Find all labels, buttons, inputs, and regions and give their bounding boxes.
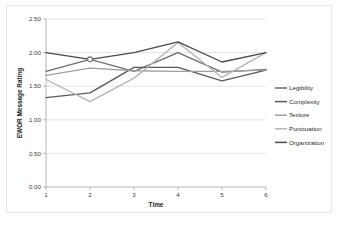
x-tick-label-6: 6 [264,191,268,198]
legend-label-organization: Organization [289,139,325,146]
data-marker-group [88,57,93,62]
y-tick-label-2-50: 2.50 [29,15,42,22]
gridlines [46,19,266,153]
x-tick-label-3: 3 [132,191,136,198]
data-series-group [46,42,266,102]
x-axis-title: Time [149,201,164,208]
x-tick-label-4: 4 [176,191,180,198]
x-tick-label-1: 1 [44,191,48,198]
series-line-legibility [46,53,266,72]
chart-legend: LegibilityComplexityTexturePunctuationOr… [275,84,325,145]
legend-label-texture: Texture [289,111,310,118]
x-tick-label-5: 5 [220,191,224,198]
x-axis: 1 2 3 4 5 6 [44,187,268,198]
series-line-organization [46,42,266,62]
legend-label-complexity: Complexity [289,98,321,105]
y-tick-label-2-00: 2.00 [29,49,42,56]
y-tick-label-1-50: 1.50 [29,82,42,89]
y-axis: 2.50 2.00 1.50 1.00 0.50 0.00 [29,15,46,190]
line-chart-plot: 2.50 2.00 1.50 1.00 0.50 0.00 1 2 3 4 5 … [0,0,340,228]
y-axis-title: EWOR Message Rating [16,68,24,138]
chart-figure: 2.50 2.00 1.50 1.00 0.50 0.00 1 2 3 4 5 … [0,0,340,228]
y-tick-label-0-00: 0.00 [29,183,42,190]
legend-label-punctuation: Punctuation [289,125,322,132]
legend-label-legibility: Legibility [289,84,314,91]
data-marker-legibility [88,57,93,62]
y-tick-label-0-50: 0.50 [29,150,42,157]
y-tick-label-1-00: 1.00 [29,116,42,123]
x-tick-label-2: 2 [88,191,92,198]
